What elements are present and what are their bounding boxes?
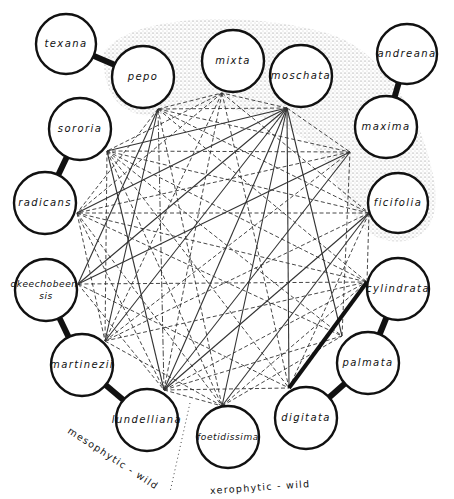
edge-sororia-foetidissima (107, 151, 222, 406)
edge-sororia-cylindrata (107, 151, 367, 282)
edge-ficifolia-martinezii (105, 213, 369, 341)
node-label-maxima: maxima (362, 121, 411, 133)
node-label-lundelliana: lundelliana (112, 414, 182, 426)
node-label-mixta: mixta (215, 55, 251, 67)
edge-mixta-lundelliana (164, 93, 222, 390)
node-label-andreana: andreana (378, 48, 437, 60)
edge-sororia-lundelliana (107, 151, 164, 390)
node-label-sororia: sororia (58, 123, 102, 135)
node-label-cylindrata: cylindrata (366, 283, 430, 295)
edge-lundelliana-palmata (164, 336, 342, 390)
edge-lundelliana-digitata (164, 388, 289, 390)
edge-moschata-foetidissima (222, 108, 287, 406)
edge-moschata-sororia (107, 108, 287, 151)
species-relationship-diagram (0, 0, 454, 499)
node-label-moschata: moschata (271, 70, 331, 82)
node-label-foetidissima: foetidissima (197, 431, 259, 443)
node-label-ficifolia: ficifolia (374, 197, 423, 209)
edge-moschata-digitata (287, 108, 289, 388)
node-label-texana: texana (45, 38, 88, 50)
node-label-digitata: digitata (281, 412, 331, 424)
node-label-palmata: palmata (343, 357, 394, 369)
edge-sororia-martinezii (105, 151, 107, 341)
node-label-radicans: radicans (18, 197, 72, 209)
node-label-martinezii: martinezii (50, 359, 114, 371)
node-label-pepo: pepo (128, 71, 159, 83)
edge-maxima-sororia (107, 151, 350, 152)
edge-lundelliana-cylindrata (164, 282, 367, 390)
node-label-okeechobeensis: okeechobeen- sis (11, 278, 82, 302)
edge-pepo-foetidissima (158, 109, 222, 406)
